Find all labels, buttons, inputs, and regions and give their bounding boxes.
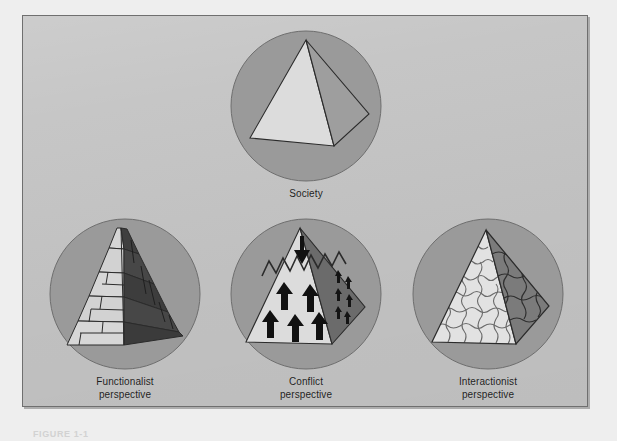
diagram-society: Society	[226, 26, 386, 201]
jigsaw-pyramid-icon	[408, 214, 568, 374]
diagram-label-functionalist: Functionalist perspective	[45, 376, 205, 401]
figure-number-caption: FIGURE 1-1	[33, 429, 89, 440]
label-line: Functionalist	[45, 376, 205, 389]
diagram-label-society: Society	[226, 188, 386, 201]
diagram-interactionist: Interactionist perspective	[408, 214, 568, 401]
label-line: perspective	[45, 389, 205, 402]
diagram-label-conflict: Conflict perspective	[226, 376, 386, 401]
brick-pyramid-icon	[45, 214, 205, 374]
figure-panel: Society	[22, 15, 588, 407]
label-line: Society	[226, 188, 386, 201]
label-line: Conflict	[226, 376, 386, 389]
diagram-label-interactionist: Interactionist perspective	[408, 376, 568, 401]
diagram-functionalist: Functionalist perspective	[45, 214, 205, 401]
label-line: perspective	[226, 389, 386, 402]
label-line: Interactionist	[408, 376, 568, 389]
pyramid-in-circle-icon	[226, 26, 386, 186]
diagram-conflict: Conflict perspective	[226, 214, 386, 401]
label-line: perspective	[408, 389, 568, 402]
cracked-pyramid-arrows-icon	[226, 214, 386, 374]
figure-stage: Society	[0, 0, 617, 441]
